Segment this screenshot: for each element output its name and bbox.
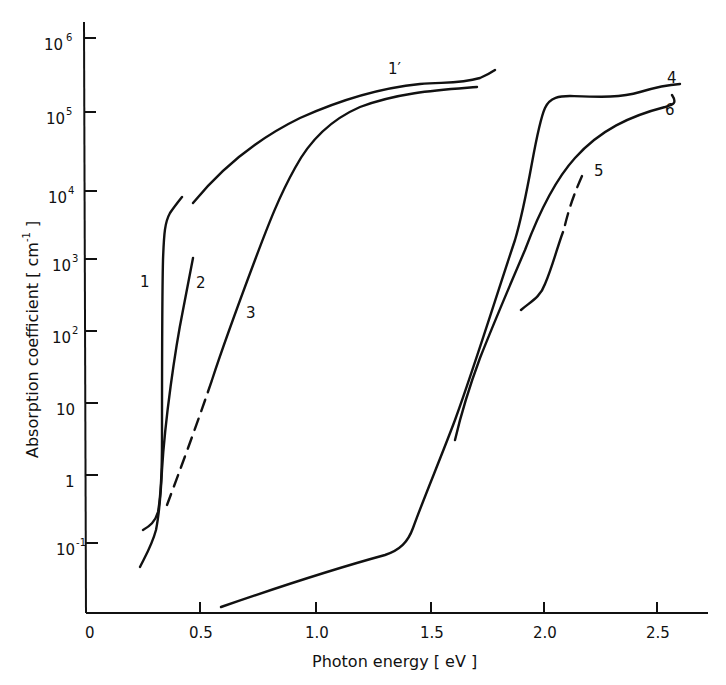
curve-label-1-prime: 1′ <box>388 60 402 78</box>
y-tick-label: 106 <box>44 32 72 54</box>
curve-label-5: 5 <box>594 162 604 180</box>
curve-labels: 1 1′ 2 3 4 5 6 <box>140 60 677 322</box>
y-axis <box>84 22 86 613</box>
curve-label-6: 6 <box>665 101 675 119</box>
x-tick-label: 2.0 <box>533 624 557 642</box>
x-tick-label: 0.5 <box>189 624 213 642</box>
curve-3-dashed <box>167 380 212 505</box>
x-tick-label: 0 <box>85 624 95 642</box>
y-tick-label: 10 <box>56 401 75 419</box>
x-tick-label: 1.0 <box>305 624 329 642</box>
curve-5-dashed <box>565 176 582 225</box>
axes <box>84 22 708 613</box>
y-tick-label: 104 <box>48 185 74 207</box>
y-tick-labels: 106 105 104 103 102 10 1 10-1 <box>44 32 86 559</box>
y-tick-label: 102 <box>52 325 78 347</box>
curve-label-2: 2 <box>196 274 206 292</box>
curve-2 <box>140 258 193 567</box>
y-tick-label: 1 <box>65 473 75 491</box>
y-tick-label: 10-1 <box>56 537 86 559</box>
curve-3 <box>212 87 477 380</box>
x-tick-labels: 0 0.5 1.0 1.5 2.0 2.5 <box>85 624 670 642</box>
curve-label-3: 3 <box>246 304 256 322</box>
curves <box>140 70 680 607</box>
x-axis-title: Photon energy [ eV ] <box>312 652 477 671</box>
x-tick-label: 1.5 <box>420 624 444 642</box>
curve-label-4: 4 <box>667 69 677 87</box>
curve-4 <box>221 84 680 607</box>
x-tick-label: 2.5 <box>646 624 670 642</box>
curve-label-1: 1 <box>140 273 150 291</box>
y-tick-label: 105 <box>46 106 72 128</box>
y-tick-label: 103 <box>52 253 78 275</box>
curve-6 <box>455 95 674 440</box>
y-axis-title: Absorption coefficient [ cm-1 ] <box>21 221 42 458</box>
absorption-chart: 106 105 104 103 102 10 1 10-1 0 0.5 1.0 … <box>0 0 726 685</box>
